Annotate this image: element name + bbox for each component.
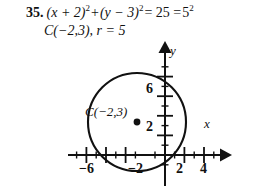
equation-radius-exponent: 2 — [189, 3, 194, 13]
x-axis-label: x — [204, 117, 210, 130]
y-axis-label: y — [170, 44, 176, 57]
equation-y-exponent: 2 — [139, 3, 144, 13]
answer-radius: r = 5 — [97, 23, 126, 38]
y-tick-label-6: 6 — [146, 82, 153, 96]
center-point-label: C(−2,3) — [85, 105, 127, 118]
answer-center: C(−2,3), — [44, 23, 93, 38]
x-tick-label-4: 4 — [200, 162, 207, 176]
equation-x-term: (x + 2)2 — [47, 5, 91, 20]
coordinate-graph: y x −6 −2 2 4 6 2 C(−2,3) — [0, 38, 261, 194]
problem-number: 35. — [26, 5, 44, 20]
x-tick-label-neg2: −2 — [128, 162, 143, 176]
figure-page: 35.(x + 2)2+(y − 3)2= 25 =52 C(−2,3), r … — [0, 0, 261, 194]
x-tick-label-2: 2 — [176, 162, 183, 176]
equation-equals-25: = 25 = — [144, 5, 181, 20]
x-axis-arrowhead — [220, 149, 232, 162]
equation-x-base: (x + 2) — [47, 5, 86, 20]
equation-y-base: (y − 3) — [100, 5, 139, 20]
equation-plus-sign: + — [91, 5, 99, 20]
problem-answer-line: C(−2,3), r = 5 — [44, 23, 126, 39]
equation-x-exponent: 2 — [86, 3, 91, 13]
equation-radius-squared: 52 — [182, 5, 194, 20]
y-tick-label-2: 2 — [146, 120, 153, 134]
problem-equation-line: 35.(x + 2)2+(y − 3)2= 25 =52 — [26, 5, 194, 21]
center-point-dot — [134, 119, 141, 126]
equation-y-term: (y − 3)2 — [100, 5, 144, 20]
x-tick-label-neg6: −6 — [79, 162, 94, 176]
